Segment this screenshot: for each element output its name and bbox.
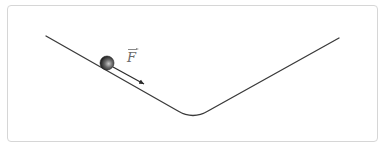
force-label: F	[127, 50, 136, 65]
incline-diagram	[0, 0, 387, 150]
track-line	[46, 36, 339, 116]
force-arrow	[113, 67, 144, 84]
force-label-text: F	[127, 50, 136, 65]
ball	[100, 56, 114, 70]
vector-arrow-icon	[128, 49, 137, 50]
